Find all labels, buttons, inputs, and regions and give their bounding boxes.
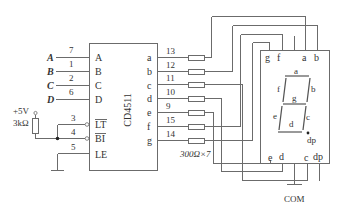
segment-dp xyxy=(307,132,310,135)
segment-label-b: b xyxy=(311,84,316,94)
ic-out-b: b xyxy=(147,66,152,77)
segment-label-c: c xyxy=(306,112,310,122)
display-pin-a: a xyxy=(302,52,307,63)
display-pin-dp: dp xyxy=(313,151,323,162)
display-wiring xyxy=(204,17,320,185)
common-label: COM xyxy=(284,194,305,204)
ic-pin-C: C xyxy=(95,80,102,91)
ic-out-f: f xyxy=(147,121,151,132)
pullup-resistor xyxy=(33,119,39,134)
input-signal-D: D xyxy=(46,94,54,105)
pin-number-5: 5 xyxy=(71,142,76,152)
segment-label-dp: dp xyxy=(307,135,317,145)
resistor-array-label: 300Ω×7 xyxy=(179,149,211,159)
pin-number-2: 2 xyxy=(69,73,74,83)
seven-segment-glyph xyxy=(278,76,310,134)
ic-pin-A: A xyxy=(95,52,103,63)
lt-inversion-bubble xyxy=(85,123,89,127)
pin-number-12: 12 xyxy=(166,60,175,70)
display-pin-g: g xyxy=(265,52,270,63)
pin-number-11: 11 xyxy=(166,73,175,83)
ic-pin-D: D xyxy=(95,94,102,105)
display-pin-b: b xyxy=(314,52,319,63)
segment-f xyxy=(283,78,286,102)
pin-number-3: 3 xyxy=(71,113,76,123)
supply-voltage-label: +5V xyxy=(13,106,30,116)
pin-number-13: 13 xyxy=(166,46,176,56)
display-pin-d: d xyxy=(279,151,284,162)
segment-label-a: a xyxy=(294,66,298,76)
segment-label-e: e xyxy=(273,111,277,121)
junction-dot xyxy=(56,137,60,141)
circuit-diagram: CD4511 A B C D 7 1 2 6 A B C D LT BI LE … xyxy=(0,0,342,219)
segment-b xyxy=(307,78,310,102)
pin-number-14: 14 xyxy=(166,129,176,139)
pin-number-10: 10 xyxy=(166,87,176,97)
pin-number-15: 15 xyxy=(166,115,176,125)
ic-pin-B: B xyxy=(95,66,102,77)
pin-number-1: 1 xyxy=(69,59,74,69)
input-signal-A: A xyxy=(46,52,54,63)
display-pin-c: c xyxy=(304,152,309,163)
output-resistor-array xyxy=(157,56,205,144)
segment-label-g: g xyxy=(292,93,297,103)
pin-number-6: 6 xyxy=(69,87,74,97)
ic-out-g: g xyxy=(147,135,152,146)
bi-inversion-bubble xyxy=(85,137,89,141)
segment-label-d: d xyxy=(289,119,294,129)
input-signal-B: B xyxy=(46,66,54,77)
segment-label-f: f xyxy=(277,84,280,94)
pin-number-4: 4 xyxy=(71,127,76,137)
display-pin-e: e xyxy=(268,152,273,163)
ic-name-label: CD4511 xyxy=(122,93,133,127)
ic-pin-BI: BI xyxy=(95,133,105,144)
pin-number-7: 7 xyxy=(69,45,74,55)
pullup-network xyxy=(33,111,90,170)
ic-out-d: d xyxy=(147,93,152,104)
supply-terminal xyxy=(34,111,37,114)
ic-out-a: a xyxy=(147,52,152,63)
input-signal-C: C xyxy=(47,80,54,91)
ic-out-e: e xyxy=(147,107,152,118)
pin-number-9: 9 xyxy=(166,101,171,111)
ic-pin-LE: LE xyxy=(95,149,107,160)
display-pin-f: f xyxy=(277,52,281,63)
ic-pin-LT: LT xyxy=(95,119,106,130)
ic-out-c: c xyxy=(147,80,152,91)
pullup-resistor-label: 3kΩ xyxy=(13,118,29,128)
segment-e xyxy=(279,106,282,130)
